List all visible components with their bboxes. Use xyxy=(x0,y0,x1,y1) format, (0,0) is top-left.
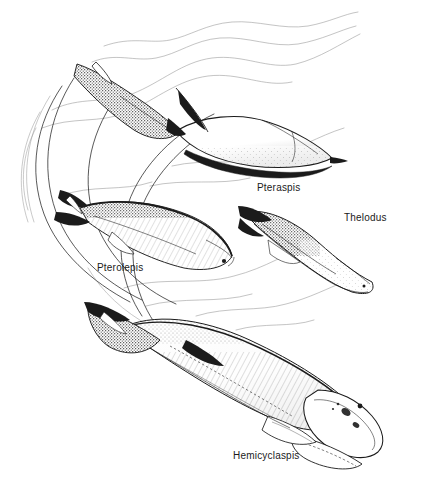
specimen-pterolepis xyxy=(54,190,246,276)
illustration-plate: Pteraspis Thelodus Pterolepis Hemicyclas… xyxy=(0,0,421,484)
hemicyclaspis-eye xyxy=(358,404,363,409)
pterolepis-eye xyxy=(222,259,226,263)
species-label-pterolepis: Pterolepis xyxy=(97,262,143,273)
thelodus-eye xyxy=(363,285,366,288)
specimen-hemicyclaspis xyxy=(84,300,383,469)
illustration-artwork xyxy=(0,0,421,484)
species-label-hemicyclaspis: Hemicyclaspis xyxy=(233,450,300,461)
species-label-pteraspis: Pteraspis xyxy=(257,182,301,193)
pteraspis-rostrum xyxy=(330,157,348,163)
species-label-thelodus: Thelodus xyxy=(344,212,387,223)
